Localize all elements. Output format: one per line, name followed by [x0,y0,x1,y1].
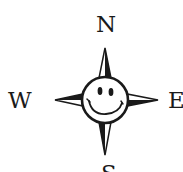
east-point [127,94,158,106]
east-label: E [168,89,183,112]
compass-star-icon [0,0,183,172]
west-point [55,94,83,106]
left-eye [98,87,103,95]
south-point [99,122,111,155]
smiley-face-icon [82,77,128,123]
north-label: N [96,13,116,36]
north-point [99,48,111,78]
right-eye [109,88,114,96]
compass-rose: N W E S [0,0,183,172]
west-label: W [8,89,32,112]
south-label: S [101,162,117,172]
